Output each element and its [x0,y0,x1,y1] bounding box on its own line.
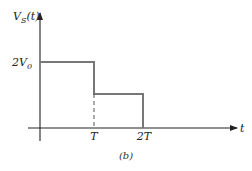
figure-caption: (b) [119,150,133,161]
x-axis-label: t [240,122,245,135]
signal-waveform [40,62,143,128]
waveform-diagram: VS(t) 2V0 T 2T t (b) [0,0,252,171]
x-tick-2T: 2T [136,130,153,143]
y-tick-2V0: 2V0 [11,56,32,71]
x-tick-T: T [90,130,99,143]
y-axis-label: VS(t) [13,10,39,25]
